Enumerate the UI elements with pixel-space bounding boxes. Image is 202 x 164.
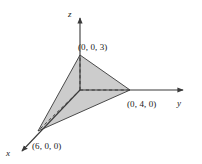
x-axis-label: x: [5, 148, 10, 158]
y-axis-label: y: [176, 98, 181, 108]
z-axis-label: z: [67, 9, 72, 19]
point-label-x-intercept: (6, 0, 0): [32, 141, 61, 151]
figure-container: z y x (0, 0, 3) (0, 4, 0) (6, 0, 0): [0, 0, 202, 164]
point-label-y-intercept: (0, 4, 0): [127, 99, 156, 109]
point-label-z-intercept: (0, 0, 3): [78, 42, 107, 52]
coordinate-figure: z y x (0, 0, 3) (0, 4, 0) (6, 0, 0): [0, 0, 202, 164]
